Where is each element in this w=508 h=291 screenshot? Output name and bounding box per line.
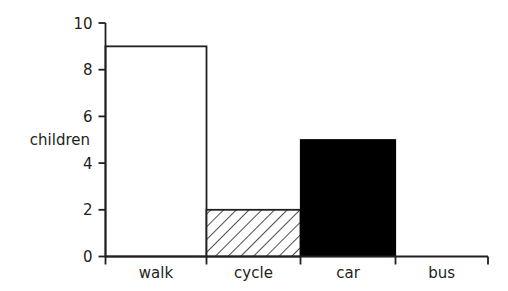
x-category-label-cycle: cycle [234, 264, 273, 282]
y-tick-label: 2 [83, 201, 93, 219]
x-category-label-walk: walk [139, 264, 174, 282]
y-tick-label: 10 [73, 15, 92, 33]
chart-canvas: 0246810 walkcyclecarbus children [0, 0, 508, 291]
y-tick-label: 0 [83, 248, 93, 266]
y-tick-label: 8 [83, 61, 93, 79]
bar-car [301, 140, 396, 257]
bar-walk [106, 46, 207, 256]
bar-cycle [207, 210, 301, 257]
x-category-label-car: car [336, 264, 360, 282]
y-axis-title: children [30, 131, 90, 149]
y-tick-label: 4 [83, 155, 93, 173]
bar-chart: 0246810 walkcyclecarbus children [0, 0, 508, 291]
x-category-label-bus: bus [428, 264, 455, 282]
y-tick-label: 6 [83, 108, 93, 126]
